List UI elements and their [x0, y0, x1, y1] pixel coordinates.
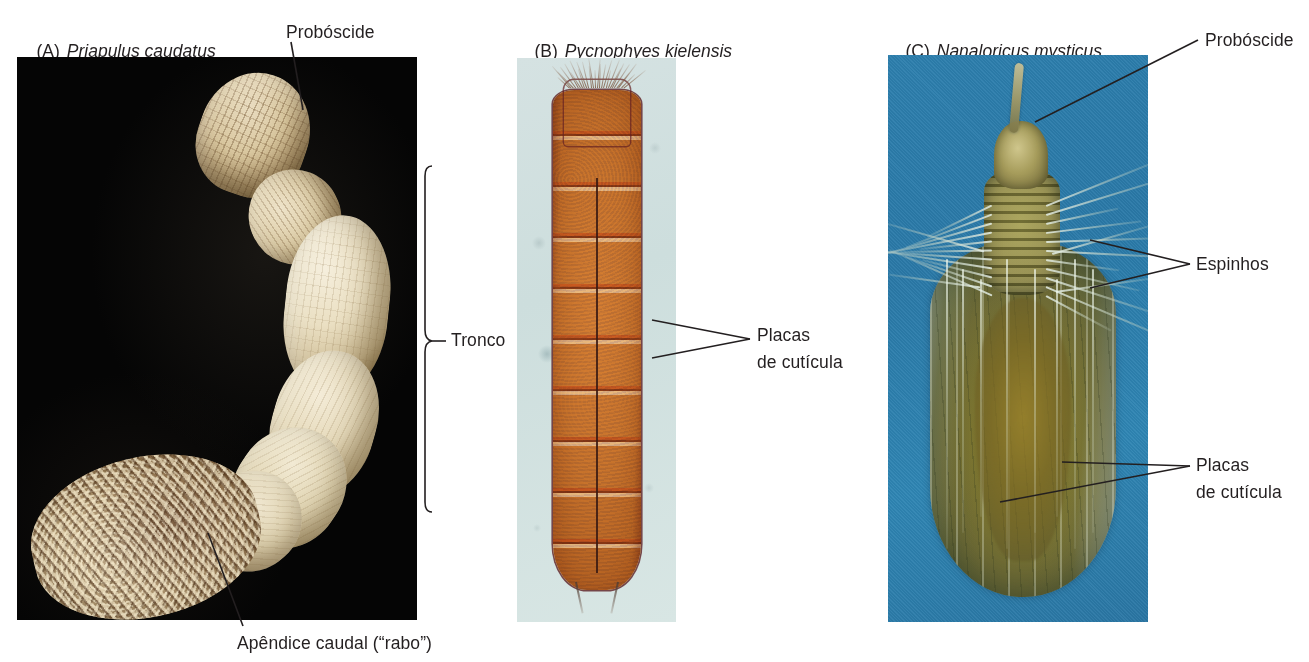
kinorhynch-head-introvert — [564, 80, 630, 146]
loriciferan-lorica-ridge — [1034, 269, 1036, 533]
panel-b-photo-pycnophyes-kielensis — [517, 58, 676, 622]
loriciferan-lorica-ridge — [962, 269, 964, 533]
loriciferan-mouth-cone — [994, 121, 1048, 189]
loriciferan-lorica-ridge — [1092, 269, 1094, 533]
label-proboscide-a: Probóscide — [286, 22, 375, 43]
panel-c-photo-nanaloricus-mysticus — [888, 55, 1148, 622]
kinorhynch-head-spine — [594, 70, 596, 88]
kinorhynch-body — [553, 90, 641, 590]
label-apendice-caudal: Apêndice caudal (“rabo”) — [237, 633, 432, 654]
label-tronco: Tronco — [451, 330, 505, 351]
loriciferan-lorica-ridge — [946, 259, 948, 549]
label-placas-de-cuticula-b-line1: Placas — [757, 325, 810, 346]
loriciferan-lorica-ridge — [1074, 259, 1076, 549]
figure-three-panel-scalidophora: (A)Priapulus caudatus Probóscide Tronco … — [0, 0, 1309, 662]
label-proboscide-c: Probóscide — [1205, 30, 1294, 51]
loriciferan-lorica-ridge — [1006, 259, 1008, 549]
label-placas-de-cuticula-c-line1: Placas — [1196, 455, 1249, 476]
kinorhynch-midline — [596, 178, 598, 573]
label-placas-de-cuticula-c-line2: de cutícula — [1196, 482, 1282, 503]
panel-a-photo-priapulus-caudatus — [17, 57, 417, 620]
loriciferan-lorica-ridge — [980, 279, 982, 517]
label-espinhos: Espinhos — [1196, 254, 1269, 275]
label-placas-de-cuticula-b-line2: de cutícula — [757, 352, 843, 373]
loriciferan-lorica-ridge — [1056, 279, 1058, 517]
bracket-tronco — [425, 166, 432, 512]
